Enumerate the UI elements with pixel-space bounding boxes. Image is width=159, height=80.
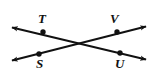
point-label-V: V xyxy=(110,12,119,25)
point-dot-V xyxy=(114,29,119,34)
point-dot-T xyxy=(40,29,45,34)
geometry-figure: T V S U xyxy=(0,0,159,80)
intersecting-lines-svg xyxy=(0,0,159,80)
point-label-U: U xyxy=(115,57,124,70)
point-label-T: T xyxy=(38,12,46,25)
point-dot-U xyxy=(117,50,122,55)
point-label-S: S xyxy=(36,57,43,70)
